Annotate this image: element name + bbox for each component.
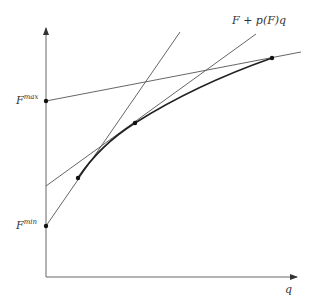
point-curve-start xyxy=(76,176,80,180)
fmin-line xyxy=(46,32,180,226)
label-fmax-sup: max xyxy=(24,93,39,101)
point-fmax xyxy=(44,99,48,103)
tangent-line xyxy=(46,34,256,186)
label-fmax: Fmax xyxy=(16,94,38,106)
point-curve-middle xyxy=(133,121,137,125)
label-line: F + p(F)q xyxy=(232,15,286,26)
diagram-svg xyxy=(0,0,321,299)
point-fmin xyxy=(44,224,48,228)
label-x-axis: q xyxy=(285,284,292,295)
point-curve-end xyxy=(270,56,274,60)
label-fmin-sup: min xyxy=(24,218,37,226)
label-fmin-base: F xyxy=(16,219,24,232)
label-fmin: Fmin xyxy=(16,219,37,231)
diagram-canvas: Fmax Fmin F + p(F)q q xyxy=(0,0,321,299)
label-fmax-base: F xyxy=(16,94,24,107)
